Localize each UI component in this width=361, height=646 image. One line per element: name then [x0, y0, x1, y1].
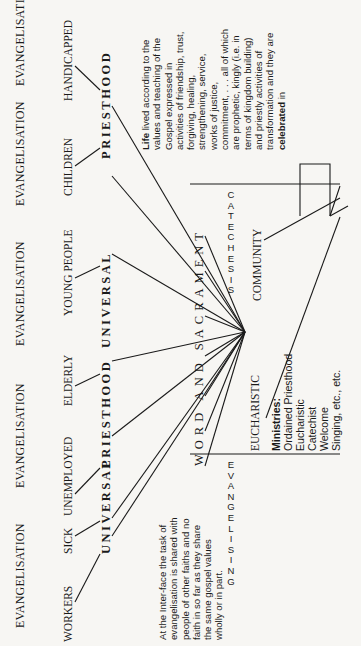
- line-unemployed: [75, 468, 100, 494]
- evangelisation-label: EVANGELISATION: [14, 0, 26, 86]
- evangelisation-label: EVANGELISATION: [14, 241, 26, 346]
- interface-note: At the Inter-face the task of evangelisa…: [157, 517, 225, 640]
- celebrated-tail: in: [276, 92, 287, 102]
- group-handicapped: HANDICAPPED: [63, 20, 75, 101]
- line-children: [75, 148, 100, 166]
- group-elderly: ELDERLY: [63, 355, 75, 406]
- catechesis-column: C A T E C H E S I S: [225, 190, 237, 296]
- ministries-list: Ministries: Ordained Priesthood Eucharis…: [270, 354, 342, 451]
- priesthood-label: PRIESTHOOD: [100, 360, 113, 468]
- evangelisation-label: EVANGELISATION: [14, 101, 26, 206]
- group-unemployed: UNEMPLOYED: [63, 437, 75, 516]
- line-young: [75, 266, 100, 278]
- universal-label: UNIVERSAL: [100, 252, 113, 348]
- celebrated-bracket: [300, 164, 330, 216]
- celebrated-label: celebrated: [276, 102, 287, 150]
- line-workers: [75, 554, 100, 602]
- evangelisation-label: EVANGELISATION: [14, 523, 26, 628]
- eucharistic-label: EUCHARISTIC: [250, 375, 262, 451]
- ministry-item: Singing, etc., etc.: [330, 370, 342, 451]
- ministry-item: Eucharistic: [294, 399, 306, 451]
- word-and-sacrament: WORD AND SACRAMENT: [193, 228, 206, 466]
- line-elderly: [75, 374, 100, 386]
- group-children: CHILDREN: [63, 138, 75, 196]
- life-body: lived according to the values and teachi…: [140, 29, 275, 150]
- community-label: COMMUNITY: [252, 229, 264, 301]
- life-lead: Life: [140, 133, 151, 150]
- universal-label: UNIVERSAL: [100, 458, 113, 554]
- evangelising-column: E V A N G E L I S I N G: [225, 460, 237, 587]
- evangelisation-label: EVANGELISATION: [14, 383, 26, 488]
- priesthood-label: PRIESTHOOD: [100, 51, 113, 159]
- group-workers: WORKERS: [63, 586, 75, 642]
- life-note: Life lived according to the values and t…: [140, 29, 287, 150]
- ministry-item: Catechist: [306, 407, 318, 451]
- line-sick: [75, 521, 100, 536]
- group-young-people: YOUNG PEOPLE: [63, 229, 75, 316]
- group-sick: SICK: [63, 528, 75, 554]
- ministry-item: Welcome: [318, 407, 330, 451]
- evangelisation-diagram: EVANGELISATION EVANGELISATION EVANGELISA…: [0, 0, 361, 646]
- ministries-title: Ministries:: [270, 398, 282, 451]
- ministry-item: Ordained Priesthood: [282, 354, 294, 451]
- line-handicapped: [75, 66, 100, 90]
